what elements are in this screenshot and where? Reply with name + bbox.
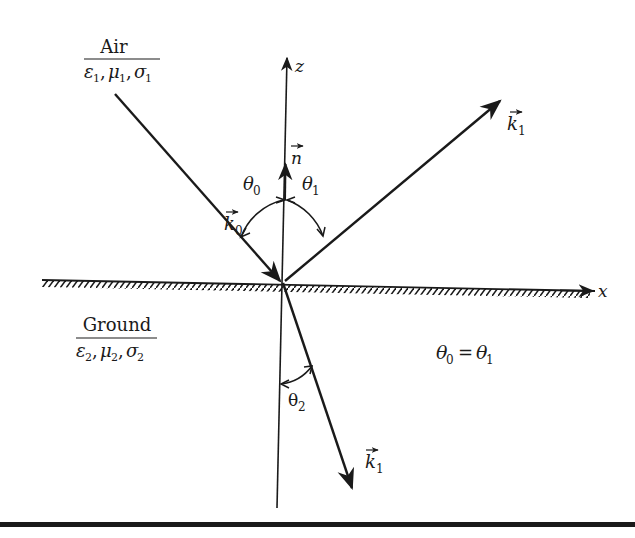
reflected-vector-label: k 1	[507, 112, 526, 138]
svg-text:Air: Air	[99, 36, 128, 57]
incidence-angle-arc	[241, 200, 283, 237]
normal-vector	[285, 164, 286, 200]
refraction-angle-label: θ 2	[288, 390, 306, 414]
svg-text:1: 1	[376, 462, 384, 476]
transmitted-ray	[283, 283, 352, 488]
x-axis	[560, 290, 593, 291]
svg-text:2: 2	[111, 351, 118, 364]
svg-text:2: 2	[298, 400, 306, 414]
svg-text:0: 0	[253, 184, 261, 198]
incidence-angle-label: θ 0	[243, 173, 261, 198]
svg-text:0: 0	[446, 353, 454, 367]
svg-text:1: 1	[93, 72, 100, 85]
svg-text:k: k	[224, 213, 235, 234]
transmitted-vector-label: k 1	[365, 450, 384, 476]
ground-surface	[42, 280, 595, 298]
incident-vector-label: k 0	[224, 212, 243, 238]
svg-text:,: ,	[118, 340, 124, 361]
svg-text:1: 1	[145, 72, 152, 85]
air-medium-label: Air ε 1 , μ 1 , σ 1	[84, 36, 160, 85]
reflection-angle-label: θ 1	[302, 173, 320, 198]
svg-text:θ: θ	[288, 390, 298, 410]
svg-text:k: k	[507, 113, 518, 134]
z-axis	[277, 58, 287, 508]
normal-vector-label: n	[291, 146, 303, 168]
svg-text:,: ,	[92, 340, 98, 361]
x-axis-label: x	[598, 281, 608, 301]
svg-text:,: ,	[100, 61, 106, 82]
svg-text:μ: μ	[108, 61, 120, 82]
svg-text:1: 1	[486, 353, 494, 367]
z-axis-label: z	[294, 56, 305, 76]
bottom-rule	[0, 522, 635, 527]
svg-text:2: 2	[85, 351, 92, 364]
svg-text:=: =	[458, 342, 473, 363]
svg-text:n: n	[291, 148, 302, 168]
svg-text:,: ,	[126, 61, 132, 82]
svg-text:2: 2	[137, 351, 144, 364]
ground-medium-label: Ground ε 2 , μ 2 , σ 2	[76, 314, 157, 364]
angle-relation: θ 0 = θ 1	[436, 341, 494, 367]
svg-text:1: 1	[518, 124, 526, 138]
svg-text:μ: μ	[100, 340, 112, 361]
svg-text:1: 1	[119, 72, 126, 85]
reflection-refraction-diagram: x z n k 0 k 1 k 1 θ 0 θ 1	[0, 0, 635, 538]
svg-text:1: 1	[312, 184, 320, 198]
svg-text:Ground: Ground	[83, 314, 152, 335]
svg-text:k: k	[365, 451, 376, 472]
